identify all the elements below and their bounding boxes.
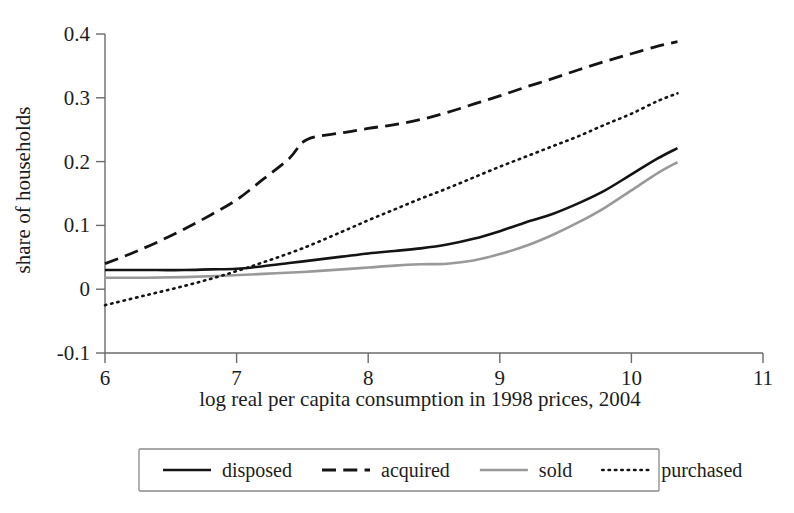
chart-legend: disposedacquiredsoldpurchased: [139, 449, 742, 491]
y-tick-label: 0.2: [64, 150, 90, 174]
legend-label-acquired: acquired: [381, 459, 450, 482]
legend-label-purchased: purchased: [661, 459, 742, 482]
legend-label-disposed: disposed: [222, 459, 292, 482]
chart-figure: 0.40.30.20.10-0.1 67891011 share of hous…: [0, 0, 794, 513]
series-line-disposed: [105, 148, 677, 270]
x-tick-label: 6: [100, 366, 111, 390]
y-tick-label: 0.3: [64, 86, 90, 110]
y-axis-title: share of households: [11, 107, 35, 274]
x-axis-ticks: 67891011: [100, 353, 773, 390]
axes: [105, 34, 763, 353]
x-axis-title: log real per capita consumption in 1998 …: [199, 387, 641, 411]
y-tick-label: 0: [80, 277, 91, 301]
y-tick-label: 0.4: [64, 22, 91, 46]
data-series-group: [105, 42, 677, 305]
y-axis-ticks: 0.40.30.20.10-0.1: [57, 22, 105, 365]
series-line-acquired: [105, 42, 677, 264]
series-line-sold: [105, 162, 677, 278]
x-tick-label: 11: [753, 366, 773, 390]
y-tick-label: -0.1: [57, 341, 90, 365]
legend-label-sold: sold: [539, 459, 572, 481]
y-tick-label: 0.1: [64, 213, 90, 237]
